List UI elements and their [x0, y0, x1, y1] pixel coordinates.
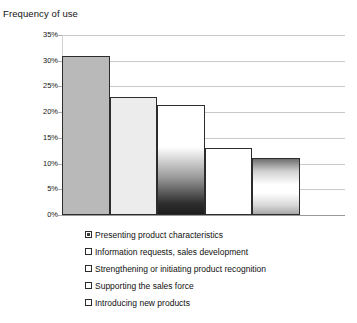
legend-item-label: Supporting the sales force [95, 281, 194, 291]
bar [110, 97, 158, 215]
legend-item[interactable]: Presenting product characteristics [85, 226, 350, 243]
y-axis-tick-mark [58, 215, 62, 216]
legend-swatch-icon [85, 282, 92, 289]
legend-item[interactable]: Introducing new products [85, 294, 350, 311]
y-axis-tick-label: 0% [18, 211, 58, 219]
bar [252, 158, 300, 215]
legend-swatch-icon [85, 231, 92, 238]
chart-title: Frequency of use [3, 8, 78, 19]
y-axis-tick-mark [58, 138, 62, 139]
y-axis-tick-mark [58, 189, 62, 190]
y-axis-tick-label: 15% [18, 134, 58, 142]
y-axis-tick-label: 10% [18, 160, 58, 168]
chart-legend: Presenting product characteristicsInform… [85, 226, 350, 311]
y-axis-tick-mark [58, 86, 62, 87]
gridline [62, 215, 345, 216]
y-axis-tick-mark [58, 35, 62, 36]
bar [62, 56, 110, 215]
legend-item-label: Information requests, sales development [95, 247, 248, 257]
legend-swatch-icon [85, 248, 92, 255]
legend-swatch-icon [85, 299, 92, 306]
y-axis-tick-label: 35% [18, 31, 58, 39]
y-axis-tick-label: 30% [18, 57, 58, 65]
y-axis-tick-mark [58, 61, 62, 62]
legend-item[interactable]: Information requests, sales development [85, 243, 350, 260]
legend-item[interactable]: Strengthening or initiating product reco… [85, 260, 350, 277]
y-axis-tick-mark [58, 164, 62, 165]
bar [205, 148, 253, 215]
legend-swatch-icon [85, 265, 92, 272]
bars-layer [62, 35, 300, 215]
legend-item[interactable]: Supporting the sales force [85, 277, 350, 294]
y-axis-tick-labels: 35%30%25%20%15%10%5%0% [14, 35, 58, 215]
legend-item-label: Introducing new products [95, 298, 190, 308]
legend-item-label: Strengthening or initiating product reco… [95, 264, 266, 274]
y-axis-tick-label: 20% [18, 108, 58, 116]
y-axis-tick-mark [58, 112, 62, 113]
y-axis-tick-label: 25% [18, 82, 58, 90]
y-axis-tick-label: 5% [18, 185, 58, 193]
bar [157, 105, 205, 215]
bar-chart: Frequency of use 35%30%25%20%15%10%5%0% … [0, 0, 357, 323]
legend-item-label: Presenting product characteristics [95, 230, 223, 240]
